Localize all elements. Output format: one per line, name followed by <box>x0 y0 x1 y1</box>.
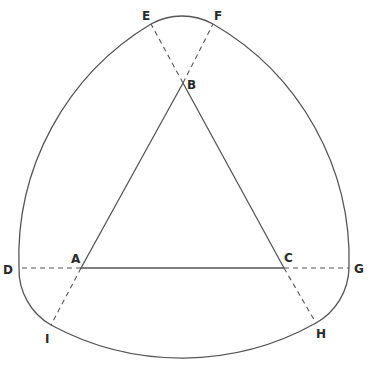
label-f: F <box>214 9 222 23</box>
label-b: B <box>187 78 196 92</box>
label-h: H <box>316 327 326 341</box>
label-a: A <box>71 252 81 266</box>
point-labels: A B C D E F G H I <box>3 9 364 346</box>
label-c: C <box>284 251 293 265</box>
extension-b-f <box>183 24 213 83</box>
label-i: I <box>45 332 49 346</box>
label-g: G <box>354 262 364 276</box>
label-e: E <box>142 9 150 23</box>
constant-width-diagram: A B C D E F G H I <box>0 0 373 365</box>
outer-curve <box>19 16 349 358</box>
extension-c-h <box>284 268 316 323</box>
extension-a-i <box>51 268 81 325</box>
dashed-extensions <box>19 24 349 325</box>
extension-b-e <box>151 24 183 83</box>
triangle-abc <box>81 83 284 268</box>
label-d: D <box>3 263 13 277</box>
